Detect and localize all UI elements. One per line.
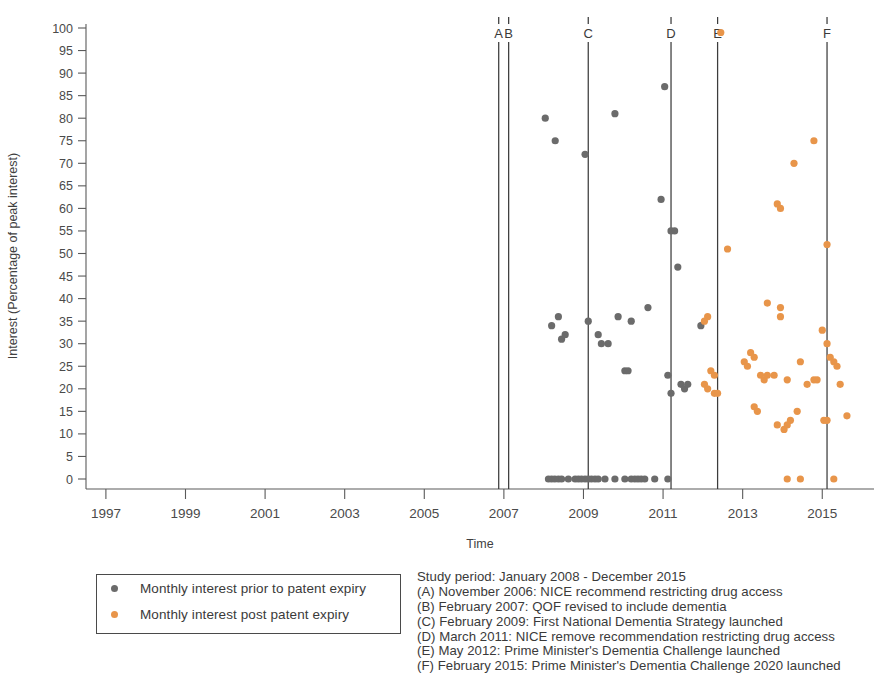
- data-point-post-expiry: [813, 376, 820, 383]
- x-tick-label: 1997: [91, 506, 121, 521]
- y-tick-label: 0: [66, 473, 73, 487]
- data-point-pre-expiry: [641, 475, 648, 482]
- y-tick-label: 80: [59, 112, 73, 126]
- data-point-post-expiry: [754, 408, 761, 415]
- data-point-post-expiry: [701, 318, 708, 325]
- data-point-post-expiry: [714, 390, 721, 397]
- x-tick-label: 2001: [250, 506, 280, 521]
- data-point-pre-expiry: [595, 331, 602, 338]
- y-tick-label: 25: [59, 360, 73, 374]
- x-tick-label: 2015: [807, 506, 837, 521]
- annotation-event-d: (D) March 2011: NICE remove recommendati…: [417, 630, 841, 645]
- x-tick-label: 2011: [649, 506, 678, 521]
- data-point-post-expiry: [797, 475, 804, 482]
- data-point-pre-expiry: [542, 115, 549, 122]
- y-tick-label: 45: [59, 270, 73, 284]
- data-point-post-expiry: [823, 417, 830, 424]
- x-axis-group: 1997199920012003200520072009201120132015: [91, 489, 837, 521]
- y-tick-label: 75: [59, 134, 73, 148]
- annotation-event-a: (A) November 2006: NICE recommend restri…: [417, 585, 841, 600]
- x-tick-label: 2003: [330, 506, 360, 521]
- x-tick-label: 1999: [170, 506, 200, 521]
- data-point-post-expiry: [777, 205, 784, 212]
- event-marker-label-b: B: [504, 26, 513, 41]
- data-point-pre-expiry: [601, 475, 608, 482]
- legend-label-pre-expiry: Monthly interest prior to patent expiry: [140, 581, 366, 596]
- data-point-pre-expiry: [598, 340, 605, 347]
- y-tick-label: 35: [59, 315, 73, 329]
- y-tick-label: 100: [52, 22, 73, 36]
- y-tick-label: 60: [59, 202, 73, 216]
- event-marker-label-c: C: [584, 26, 593, 41]
- y-tick-label: 65: [59, 179, 73, 193]
- data-point-pre-expiry: [667, 390, 674, 397]
- data-point-pre-expiry: [595, 475, 602, 482]
- data-point-post-expiry: [790, 160, 797, 167]
- annotation-event-c: (C) February 2009: First National Dement…: [417, 615, 841, 630]
- x-tick-label: 2009: [568, 506, 598, 521]
- data-point-pre-expiry: [585, 318, 592, 325]
- y-axis-title: Interest (Percentage of peak interest): [6, 153, 20, 359]
- data-point-post-expiry: [764, 300, 771, 307]
- data-point-post-expiry: [784, 421, 791, 428]
- y-tick-label: 10: [59, 427, 73, 441]
- y-tick-label: 15: [59, 405, 73, 419]
- y-tick-label: 55: [59, 224, 73, 238]
- data-point-post-expiry: [764, 372, 771, 379]
- data-point-post-expiry: [744, 363, 751, 370]
- data-point-pre-expiry: [615, 313, 622, 320]
- data-point-post-expiry: [724, 245, 731, 252]
- data-point-pre-expiry: [684, 381, 691, 388]
- data-point-pre-expiry: [562, 331, 569, 338]
- data-point-post-expiry: [704, 385, 711, 392]
- legend-item-post-expiry: Monthly interest post patent expiry: [97, 601, 400, 627]
- data-point-post-expiry: [777, 304, 784, 311]
- data-point-pre-expiry: [664, 475, 671, 482]
- data-point-pre-expiry: [624, 367, 631, 374]
- y-tick-label: 20: [59, 382, 73, 396]
- data-point-pre-expiry: [605, 340, 612, 347]
- data-point-pre-expiry: [674, 263, 681, 270]
- data-point-post-expiry: [823, 340, 830, 347]
- data-point-pre-expiry: [548, 322, 555, 329]
- y-tick-label: 50: [59, 247, 73, 261]
- legend-item-pre-expiry: Monthly interest prior to patent expiry: [97, 575, 400, 601]
- data-point-pre-expiry: [555, 313, 562, 320]
- data-point-post-expiry: [711, 372, 718, 379]
- data-point-pre-expiry: [611, 110, 618, 117]
- data-point-post-expiry: [774, 421, 781, 428]
- legend-marker-pre-expiry: [111, 585, 118, 592]
- annotation-event-f: (F) February 2015: Prime Minister's Deme…: [417, 659, 841, 674]
- x-tick-label: 2005: [409, 506, 439, 521]
- y-axis-group: 0510152025303540455055606570758085909510…: [52, 22, 86, 487]
- data-point-post-expiry: [751, 354, 758, 361]
- annotation-event-e: (E) May 2012: Prime Minister's Dementia …: [417, 644, 841, 659]
- data-point-pre-expiry: [657, 196, 664, 203]
- data-point-post-expiry: [797, 358, 804, 365]
- data-point-post-expiry: [823, 241, 830, 248]
- y-tick-label: 70: [59, 157, 73, 171]
- data-point-pre-expiry: [644, 304, 651, 311]
- data-point-pre-expiry: [565, 475, 572, 482]
- data-point-post-expiry: [784, 475, 791, 482]
- chart-annotations: Study period: January 2008 - December 20…: [417, 570, 841, 674]
- data-point-post-expiry: [777, 313, 784, 320]
- data-point-pre-expiry: [661, 83, 668, 90]
- annotation-study-period: Study period: January 2008 - December 20…: [417, 570, 841, 585]
- y-tick-label: 85: [59, 89, 73, 103]
- data-point-post-expiry: [810, 137, 817, 144]
- data-point-post-expiry: [784, 376, 791, 383]
- data-point-pre-expiry: [552, 137, 559, 144]
- data-point-post-expiry: [830, 475, 837, 482]
- data-point-post-expiry: [837, 381, 844, 388]
- data-point-pre-expiry: [581, 151, 588, 158]
- x-tick-label: 2013: [728, 506, 758, 521]
- data-point-pre-expiry: [628, 318, 635, 325]
- y-tick-label: 5: [66, 450, 73, 464]
- data-point-post-expiry: [794, 408, 801, 415]
- data-point-pre-expiry: [671, 227, 678, 234]
- data-point-post-expiry: [843, 412, 850, 419]
- data-point-post-expiry: [717, 29, 724, 36]
- event-marker-label-d: D: [666, 26, 675, 41]
